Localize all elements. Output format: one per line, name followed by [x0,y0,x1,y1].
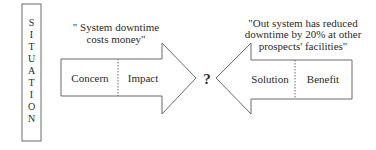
situation-letter: I [30,89,33,100]
situation-letter: U [28,53,36,64]
situation-letter: T [28,77,34,88]
question-mark: ? [203,71,211,87]
concern-impact-arrow: Concern Impact [61,43,196,114]
solution-benefit-arrow: Solution Benefit [216,43,352,114]
solution-quote: "Out system has reduced downtime by 20% … [245,17,362,52]
benefit-label: Benefit [307,73,339,85]
situation-letter: S [29,17,35,28]
situation-letter: I [30,29,33,40]
concern-quote-line: costs money" [86,33,145,45]
concern-label: Concern [71,72,109,84]
concern-quote: " System downtime costs money" [73,21,159,45]
concern-quote-line: " System downtime [73,21,159,33]
situation-letter: T [28,41,34,52]
situation-box: S I T U A T I O N [22,4,41,141]
solution-quote-line: prospects' facilities" [259,40,348,52]
diagram-canvas: S I T U A T I O N " System downtime cost… [0,0,376,150]
situation-letter: O [28,101,35,112]
impact-label: Impact [128,72,159,84]
solution-quote-line: downtime by 20% at other [245,28,362,40]
situation-letter: N [28,113,35,124]
situation-letter: A [28,65,36,76]
solution-label: Solution [251,73,289,85]
